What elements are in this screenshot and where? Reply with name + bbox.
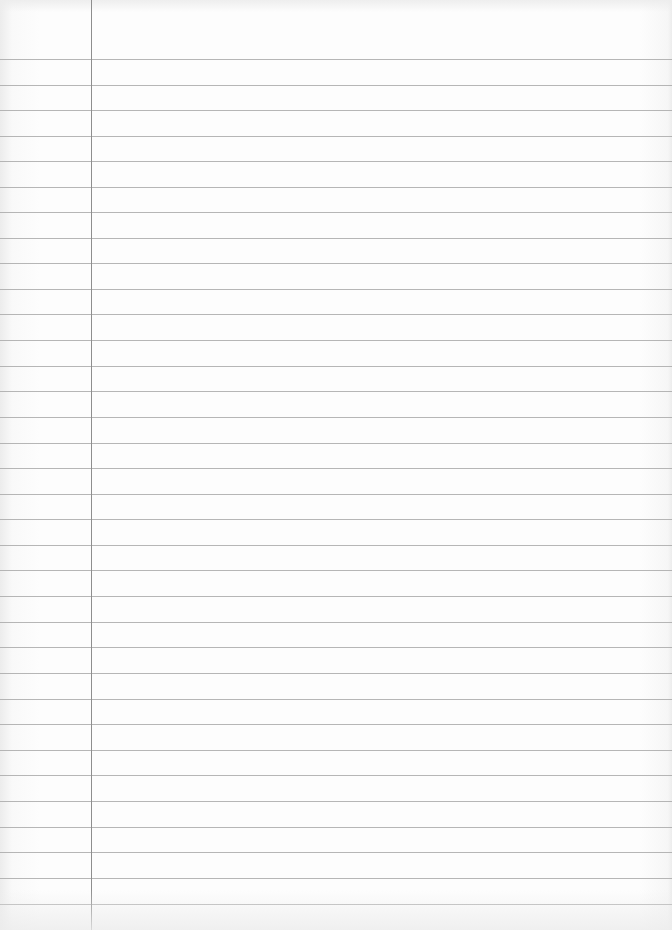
ruled-line bbox=[0, 110, 672, 111]
ruled-line bbox=[0, 570, 672, 571]
ruled-line bbox=[0, 212, 672, 213]
ruled-line bbox=[0, 545, 672, 546]
ruled-line bbox=[0, 494, 672, 495]
ruled-line bbox=[0, 622, 672, 623]
ruled-line bbox=[0, 699, 672, 700]
ruled-line bbox=[0, 724, 672, 725]
ruled-line bbox=[0, 136, 672, 137]
ruled-line bbox=[0, 468, 672, 469]
ruled-line bbox=[0, 289, 672, 290]
ruled-line bbox=[0, 750, 672, 751]
ruled-line bbox=[0, 827, 672, 828]
lined-paper-sheet bbox=[0, 0, 672, 930]
ruled-line bbox=[0, 366, 672, 367]
ruled-line bbox=[0, 519, 672, 520]
ruled-line bbox=[0, 59, 672, 60]
ruled-line bbox=[0, 314, 672, 315]
ruled-line bbox=[0, 238, 672, 239]
ruled-line bbox=[0, 187, 672, 188]
margin-line bbox=[91, 0, 92, 930]
ruled-line bbox=[0, 391, 672, 392]
ruled-line bbox=[0, 417, 672, 418]
ruled-line bbox=[0, 85, 672, 86]
ruled-line bbox=[0, 596, 672, 597]
ruled-line bbox=[0, 647, 672, 648]
ruled-line bbox=[0, 161, 672, 162]
ruled-line bbox=[0, 904, 672, 905]
ruled-line bbox=[0, 340, 672, 341]
ruled-line bbox=[0, 263, 672, 264]
ruled-line bbox=[0, 673, 672, 674]
ruled-line bbox=[0, 878, 672, 879]
ruled-line bbox=[0, 801, 672, 802]
ruled-line bbox=[0, 852, 672, 853]
ruled-line bbox=[0, 775, 672, 776]
ruled-line bbox=[0, 443, 672, 444]
